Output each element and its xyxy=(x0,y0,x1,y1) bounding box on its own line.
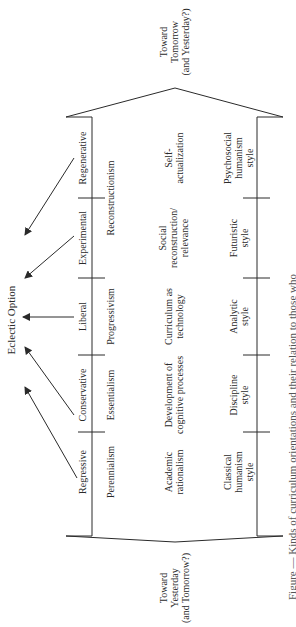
orientation-experimental: Experimental xyxy=(77,198,88,278)
label-line: Academic xyxy=(163,432,174,512)
label-line: style xyxy=(239,278,250,355)
label-line: Futuristic xyxy=(228,198,239,278)
label-line: reconstruction/ xyxy=(168,198,179,278)
conception-academic-rationalism: Academic rationalism xyxy=(163,432,185,512)
label-line: Psychosocial xyxy=(222,118,233,198)
label-line: (and Tomorrow?) xyxy=(180,548,191,627)
arrow-regressive xyxy=(25,387,77,478)
philosophy-essentialism: Essentialism xyxy=(105,356,116,434)
figure-caption-clipped: Figure — Kinds of curriculum orientation… xyxy=(286,0,296,621)
label-line: technology xyxy=(174,278,185,355)
caption-text: Figure — Kinds of curriculum orientation… xyxy=(286,274,296,600)
label-line: style xyxy=(239,356,250,434)
label-line: Self- xyxy=(163,118,174,198)
label-line: Classical xyxy=(222,432,233,512)
toward-yesterday-label: Toward Yesterday (and Tomorrow?) xyxy=(158,548,191,627)
orientation-liberal: Liberal xyxy=(77,278,88,355)
style-psychosocial-humanism: Psychosocial humanism style xyxy=(222,118,255,198)
top-arrow-outline xyxy=(66,88,283,117)
style-classical-humanism: Classical humanism style xyxy=(222,432,255,512)
label-line: Development of xyxy=(163,356,174,434)
philosophy-reconstructionism: Reconstructionism xyxy=(105,118,116,278)
philosophy-perennialism: Perennialism xyxy=(105,432,116,512)
label-line: humanism xyxy=(233,432,244,512)
arrow-conservative xyxy=(25,347,74,415)
conception-self-actualization: Self- actualization xyxy=(163,118,185,198)
label-line: Tomorrow xyxy=(169,2,180,82)
orientation-conservative: Conservative xyxy=(77,356,88,434)
arrow-experimental xyxy=(25,236,74,278)
label-line: Yesterday xyxy=(169,548,180,627)
conception-curriculum-technology: Curriculum as technology xyxy=(163,278,185,355)
label-line: style xyxy=(244,118,255,198)
label-line: (and Yesterday?) xyxy=(180,2,191,82)
bottom-arrow-outline xyxy=(66,536,283,542)
toward-tomorrow-label: Toward Tomorrow (and Yesterday?) xyxy=(158,2,191,82)
label-line: style xyxy=(239,198,250,278)
arrow-regenerative xyxy=(25,158,74,235)
style-analytic: Analytic style xyxy=(228,278,250,355)
label-line: style xyxy=(244,432,255,512)
label-line: Social xyxy=(157,198,168,278)
style-discipline: Discipline style xyxy=(228,356,250,434)
conception-cognitive-processes: Development of cognitive processes xyxy=(163,356,185,434)
eclectic-option-label: Eclectic Option xyxy=(6,280,17,360)
style-futuristic: Futuristic style xyxy=(228,198,250,278)
label-line: Curriculum as xyxy=(163,278,174,355)
label-line: Analytic xyxy=(228,278,239,355)
orientation-regressive: Regressive xyxy=(77,432,88,512)
label-line: Toward xyxy=(158,2,169,82)
label-line: relevance xyxy=(179,198,190,278)
label-line: Toward xyxy=(158,548,169,627)
label-line: rationalism xyxy=(174,432,185,512)
philosophy-progressivism: Progressivism xyxy=(105,278,116,355)
orientation-regenerative: Regenerative xyxy=(77,118,88,198)
label-line: actualization xyxy=(174,118,185,198)
label-line: cognitive processes xyxy=(174,356,185,434)
label-line: Discipline xyxy=(228,356,239,434)
label-line: humanism xyxy=(233,118,244,198)
conception-social-reconstruction: Social reconstruction/ relevance xyxy=(157,198,190,278)
